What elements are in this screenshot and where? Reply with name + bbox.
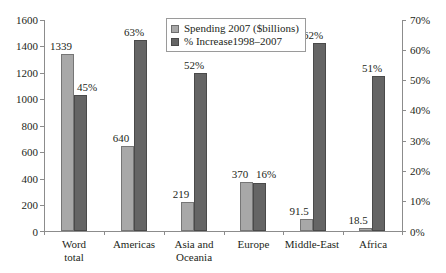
bar-spending: [359, 228, 372, 231]
x-axis-category-label: Europe: [224, 238, 283, 251]
y-axis-tick: [40, 99, 44, 100]
legend-item-increase: % Increase1998–2007: [171, 35, 299, 48]
y2-axis-tick-label: 60%: [410, 45, 430, 56]
chart-legend: Spending 2007 ($billions) % Increase1998…: [166, 18, 306, 52]
bar-value-label: 52%: [181, 60, 207, 71]
y-axis-tick: [40, 205, 44, 206]
x-axis-tick: [402, 231, 403, 235]
y-axis-tick-label: 0: [0, 227, 38, 238]
bar-value-label: 370: [227, 169, 253, 180]
y2-axis-tick: [402, 50, 406, 51]
y2-axis-tick: [402, 110, 406, 111]
y-axis-tick-label: 800: [0, 121, 38, 132]
y-axis-tick-label: 1000: [0, 94, 38, 105]
bar-increase: [134, 40, 147, 231]
x-axis-tick: [283, 231, 284, 235]
y-axis-tick-label: 400: [0, 174, 38, 185]
bar-spending: [61, 54, 74, 231]
bar-increase: [372, 76, 385, 231]
bar-value-label: 18.5: [343, 215, 373, 226]
bar-value-label: 51%: [359, 63, 385, 74]
y-axis-tick-label: 600: [0, 147, 38, 158]
bar-increase: [253, 183, 266, 231]
bar-value-label: 91.5: [284, 206, 314, 217]
y2-axis-tick: [402, 20, 406, 21]
bar-spending: [121, 146, 134, 231]
legend-label: % Increase1998–2007: [184, 36, 282, 47]
y-axis-tick: [40, 46, 44, 47]
bar-spending: [240, 182, 253, 231]
x-axis-category-label: Americas: [104, 238, 164, 251]
bar-value-label: 1339: [48, 41, 74, 52]
y-axis-tick: [40, 179, 44, 180]
x-axis-category-label: Africa: [343, 238, 403, 251]
bar-value-label: 16%: [253, 169, 279, 180]
y2-axis-tick-label: 30%: [410, 136, 430, 147]
y2-axis-tick: [402, 171, 406, 172]
y-axis-tick-label: 1200: [0, 68, 38, 79]
legend-swatch-icon: [171, 38, 179, 46]
y-axis-tick-label: 1600: [0, 15, 38, 26]
y2-axis-tick-label: 70%: [410, 15, 430, 26]
x-axis-tick: [44, 231, 45, 235]
bar-increase: [313, 43, 326, 231]
legend-item-spending: Spending 2007 ($billions): [171, 22, 299, 35]
x-axis-category-label: Middle-East: [281, 238, 343, 251]
y2-axis-tick: [402, 141, 406, 142]
bar-value-label: 219: [168, 189, 194, 200]
y2-axis-tick-label: 20%: [410, 166, 430, 177]
y-axis-tick: [40, 152, 44, 153]
x-axis-category-label: Word total: [44, 238, 104, 264]
bar-value-label: 640: [108, 133, 134, 144]
y-axis-tick: [40, 20, 44, 21]
x-axis-tick: [343, 231, 344, 235]
bar-increase: [74, 95, 87, 231]
bar-increase: [194, 73, 207, 231]
bar-chart: 1600 1400 1200 1000 800 600 400 200 0 70…: [0, 0, 446, 273]
y2-axis-tick-label: 0%: [410, 227, 425, 238]
legend-label: Spending 2007 ($billions): [184, 23, 299, 34]
y2-axis-tick-label: 10%: [410, 196, 430, 207]
y-axis-tick: [40, 73, 44, 74]
x-axis-tick: [164, 231, 165, 235]
y2-axis-tick-label: 50%: [410, 75, 430, 86]
y2-axis-tick-label: 40%: [410, 105, 430, 116]
y-axis-tick-label: 1400: [0, 41, 38, 52]
y-axis-tick: [40, 126, 44, 127]
y2-axis-tick: [402, 80, 406, 81]
y2-axis-tick: [402, 201, 406, 202]
y-axis-tick-label: 200: [0, 200, 38, 211]
x-axis-category-label: Asia and Oceania: [164, 238, 224, 264]
bar-spending: [300, 219, 313, 231]
bar-spending: [181, 202, 194, 231]
bar-value-label: 45%: [74, 82, 100, 93]
y-axis-line: [44, 20, 45, 232]
x-axis-tick: [104, 231, 105, 235]
legend-swatch-icon: [171, 25, 179, 33]
x-axis-tick: [224, 231, 225, 235]
bar-value-label: 63%: [121, 27, 147, 38]
